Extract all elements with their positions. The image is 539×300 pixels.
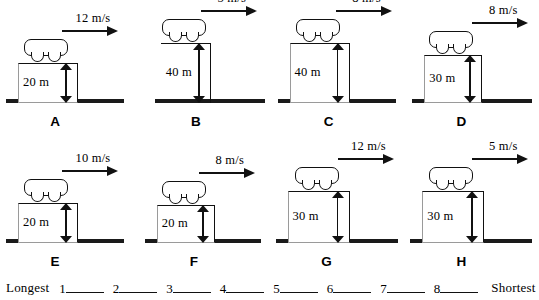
height-label: 30 m xyxy=(427,209,453,224)
ranking-line: Longest 12345678 Shortest xyxy=(0,276,539,300)
cart xyxy=(295,167,339,193)
velocity-annotation: 5 m/s xyxy=(195,0,269,17)
ranking-slot[interactable]: 1 xyxy=(59,280,113,297)
ranking-slot-blank[interactable] xyxy=(280,280,318,293)
ranking-longest-label: Longest xyxy=(6,280,49,296)
ranking-slots: 12345678 xyxy=(59,280,487,297)
cart-wheel-left xyxy=(169,32,182,42)
cart-wheel-left xyxy=(302,180,315,190)
panel-letter: E xyxy=(42,254,68,269)
ranking-slot-blank[interactable] xyxy=(333,280,371,293)
velocity-annotation: 10 m/s xyxy=(56,151,130,177)
cart xyxy=(24,39,68,65)
ranking-shortest-label: Shortest xyxy=(491,280,535,296)
cart xyxy=(429,31,473,57)
velocity-arrow-icon xyxy=(330,6,404,17)
height-label: 40 m xyxy=(166,65,192,80)
velocity-annotation: 12 m/s xyxy=(332,139,406,165)
panel-letter: F xyxy=(181,254,207,269)
panel-letter: C xyxy=(316,114,342,129)
velocity-arrow-icon xyxy=(466,18,539,29)
velocity-label: 12 m/s xyxy=(332,139,406,153)
velocity-annotation: 5 m/s xyxy=(466,139,539,165)
cart-wheel-right xyxy=(453,180,466,190)
velocity-arrow-icon xyxy=(332,154,406,165)
height-label: 20 m xyxy=(23,215,49,230)
height-dimension-arrow-icon xyxy=(332,191,344,243)
worksheet-sheet: 12 m/s20 mA5 m/s40 mB8 m/s40 mC8 m/s30 m… xyxy=(0,0,539,300)
velocity-arrow-icon xyxy=(193,168,267,179)
physics-panel-c: 8 m/s40 mC xyxy=(270,0,405,135)
ranking-slot[interactable]: 5 xyxy=(273,280,327,297)
panel-letter: H xyxy=(448,254,474,269)
height-dimension-arrow-icon xyxy=(466,191,478,243)
velocity-label: 5 m/s xyxy=(466,139,539,153)
panel-row-top: 12 m/s20 mA5 m/s40 mB8 m/s40 mC8 m/s30 m… xyxy=(0,0,539,135)
ranking-slot-blank[interactable] xyxy=(66,280,104,293)
velocity-label: 10 m/s xyxy=(56,151,130,165)
panel-letter: G xyxy=(314,254,340,269)
physics-panel-d: 8 m/s30 mD xyxy=(404,0,539,135)
cart-wheel-right xyxy=(186,194,199,204)
height-dimension-arrow-icon xyxy=(464,55,476,103)
ranking-slot-blank[interactable] xyxy=(387,280,425,293)
cart xyxy=(162,181,206,207)
height-dimension-arrow-icon xyxy=(60,63,72,103)
ranking-slot-blank[interactable] xyxy=(173,280,211,293)
height-label: 20 m xyxy=(162,216,188,231)
ranking-slot-blank[interactable] xyxy=(440,280,478,293)
height-dimension-arrow-icon xyxy=(197,205,209,243)
cart xyxy=(296,19,340,45)
height-label: 40 m xyxy=(295,65,321,80)
ranking-slot[interactable]: 6 xyxy=(327,280,381,297)
physics-panel-f: 8 m/s20 mF xyxy=(135,140,270,275)
panel-letter: D xyxy=(448,114,474,129)
ranking-slot[interactable]: 7 xyxy=(380,280,434,297)
cart-wheel-left xyxy=(436,44,449,54)
velocity-label: 8 m/s xyxy=(466,3,539,17)
physics-panel-a: 12 m/s20 mA xyxy=(0,0,135,135)
cart-wheel-right xyxy=(320,32,333,42)
velocity-arrow-icon xyxy=(56,26,130,37)
height-label: 30 m xyxy=(429,71,455,86)
cart xyxy=(429,167,473,193)
velocity-arrow-icon xyxy=(466,154,539,165)
ranking-slot[interactable]: 8 xyxy=(434,280,488,297)
cart xyxy=(24,179,68,205)
ranking-slot-blank[interactable] xyxy=(119,280,157,293)
velocity-annotation: 8 m/s xyxy=(193,153,267,179)
panel-row-bottom: 10 m/s20 mE8 m/s20 mF12 m/s30 mG5 m/s30 … xyxy=(0,140,539,275)
panel-letter: A xyxy=(42,114,68,129)
cart-wheel-left xyxy=(436,180,449,190)
velocity-annotation: 12 m/s xyxy=(56,11,130,37)
ranking-slot[interactable]: 4 xyxy=(220,280,274,297)
cart-wheel-right xyxy=(453,44,466,54)
ranking-slot[interactable]: 2 xyxy=(113,280,167,297)
velocity-arrow-icon xyxy=(195,6,269,17)
physics-panel-b: 5 m/s40 mB xyxy=(135,0,270,135)
cart-wheel-left xyxy=(303,32,316,42)
ranking-slot[interactable]: 3 xyxy=(166,280,220,297)
height-label: 30 m xyxy=(293,209,319,224)
physics-panel-e: 10 m/s20 mE xyxy=(0,140,135,275)
cart-wheel-right xyxy=(186,32,199,42)
cart-wheel-right xyxy=(48,192,61,202)
cart-wheel-left xyxy=(31,52,44,62)
panel-letter: B xyxy=(183,114,209,129)
height-dimension-arrow-icon xyxy=(193,43,205,103)
height-dimension-arrow-icon xyxy=(332,43,344,103)
physics-panel-h: 5 m/s30 mH xyxy=(404,140,539,275)
cart-wheel-right xyxy=(319,180,332,190)
velocity-label: 8 m/s xyxy=(193,153,267,167)
velocity-label: 5 m/s xyxy=(195,0,269,5)
cart-wheel-left xyxy=(31,192,44,202)
velocity-arrow-icon xyxy=(56,166,130,177)
cart-wheel-right xyxy=(48,52,61,62)
velocity-label: 8 m/s xyxy=(330,0,404,5)
velocity-annotation: 8 m/s xyxy=(330,0,404,17)
ranking-slot-blank[interactable] xyxy=(226,280,264,293)
cart-wheel-left xyxy=(169,194,182,204)
physics-panel-g: 12 m/s30 mG xyxy=(270,140,405,275)
velocity-annotation: 8 m/s xyxy=(466,3,539,29)
height-dimension-arrow-icon xyxy=(60,203,72,243)
